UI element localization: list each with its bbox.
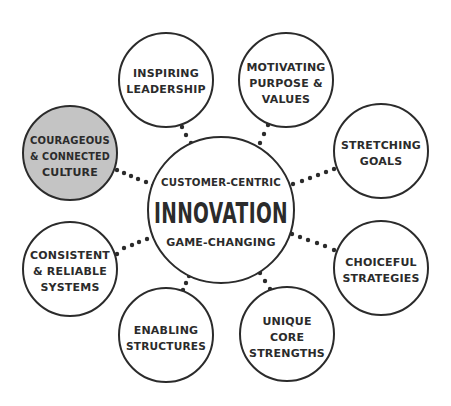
node-label-line: UNIQUE [262, 315, 311, 328]
node-courageous-connected-culture: COURAGEOUS & CONNECTED CULTURE [23, 106, 117, 200]
center-node-innovation: CUSTOMER-CENTRIC INNOVATION GAME-CHANGIN… [148, 137, 294, 283]
connector-choiceful-strategies [290, 232, 336, 252]
node-label-line: MOTIVATING [246, 61, 325, 74]
node-label-line: COURAGEOUS [30, 134, 110, 147]
connector-unique-core-strengths [258, 271, 272, 291]
node-label-line: VALUES [262, 93, 310, 106]
connector-stretching-goals [291, 167, 336, 186]
center-bottom-label: GAME-CHANGING [166, 236, 276, 249]
node-inspiring-leadership: INSPIRING LEADERSHIP [119, 33, 213, 127]
node-label-line: SYSTEMS [40, 281, 99, 294]
node-label-line: & RELIABLE [33, 265, 107, 278]
node-choiceful-strategies: CHOICEFUL STRATEGIES [334, 221, 428, 315]
node-label-line: PURPOSE & [249, 77, 323, 90]
node-label-line: CONSISTENT [30, 249, 110, 262]
connector-courageous-culture [115, 168, 155, 188]
connector-motivating-purpose [258, 123, 270, 145]
innovation-diagram: CUSTOMER-CENTRIC INNOVATION GAME-CHANGIN… [0, 0, 451, 406]
node-label-line: CULTURE [42, 166, 98, 179]
connector-consistent-systems [115, 234, 156, 256]
node-label-line: & CONNECTED [30, 150, 110, 163]
node-label-line: GOALS [360, 155, 403, 168]
center-top-label: CUSTOMER-CENTRIC [161, 176, 281, 189]
node-label-line: CORE [270, 331, 304, 344]
connector-inspiring-leadership [180, 125, 193, 145]
center-title: INNOVATION [154, 197, 288, 230]
node-label-line: INSPIRING [133, 67, 199, 80]
node-label-line: LEADERSHIP [126, 83, 205, 96]
node-consistent-reliable-systems: CONSISTENT & RELIABLE SYSTEMS [23, 222, 117, 316]
node-label-line: CHOICEFUL [345, 256, 417, 269]
node-label-line: STRUCTURES [126, 340, 206, 353]
node-label-line: STRATEGIES [342, 272, 419, 285]
node-motivating-purpose: MOTIVATING PURPOSE & VALUES [239, 33, 333, 127]
node-enabling-structures: ENABLING STRUCTURES [119, 288, 213, 382]
node-label-line: ENABLING [134, 324, 199, 337]
node-unique-core-strengths: UNIQUE CORE STRENGTHS [240, 287, 334, 381]
node-label-line: STRENGTHS [249, 347, 325, 360]
node-stretching-goals: STRETCHING GOALS [334, 104, 428, 198]
node-label-line: STRETCHING [341, 139, 421, 152]
